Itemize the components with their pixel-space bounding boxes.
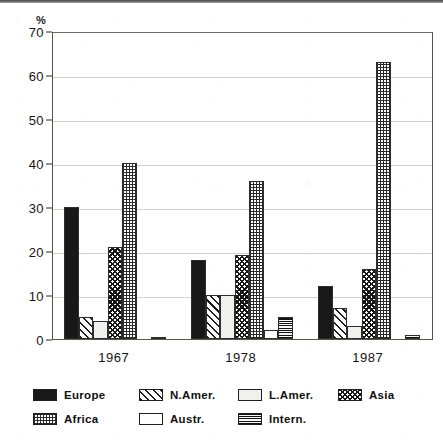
legend-label: Intern.	[269, 413, 306, 425]
bar-asia-1978	[235, 255, 250, 339]
legend-item-europe[interactable]: Europe	[33, 385, 105, 405]
bar-namer-1987	[333, 308, 348, 339]
legend-item-namer[interactable]: N.Amer.	[139, 385, 216, 405]
legend-item-asia[interactable]: Asia	[338, 385, 395, 405]
bar-chart-figure: % 010203040506070 196719781987 EuropeN.A…	[0, 0, 443, 440]
chart-legend: EuropeN.Amer.L.Amer.Asia AfricaAustr.Int…	[33, 385, 433, 433]
legend-swatch-intern-icon	[238, 413, 262, 425]
bar-lamer-1978	[220, 295, 235, 339]
x-label-1987: 1987	[352, 350, 383, 365]
legend-item-austr[interactable]: Austr.	[139, 409, 204, 429]
legend-label: N.Amer.	[170, 389, 216, 401]
y-tick-label: 20	[8, 245, 44, 260]
bar-series-container	[53, 33, 432, 339]
legend-swatch-europe-icon	[33, 389, 57, 401]
legend-label: Austr.	[170, 413, 204, 425]
legend-swatch-lamer-icon	[238, 389, 262, 401]
y-tick-label: 30	[8, 201, 44, 216]
bar-europe-1987	[318, 286, 333, 339]
y-tick-label: 60	[8, 69, 44, 84]
legend-item-africa[interactable]: Africa	[33, 409, 98, 429]
plot-area	[52, 32, 433, 340]
legend-label: Africa	[64, 413, 98, 425]
bar-europe-1967	[64, 207, 79, 339]
bar-asia-1987	[362, 269, 377, 339]
bar-africa-1987	[376, 62, 391, 339]
legend-label: Asia	[369, 389, 395, 401]
bar-asia-1967	[108, 247, 123, 339]
x-label-1978: 1978	[225, 350, 256, 365]
bar-lamer-1967	[93, 321, 108, 339]
y-tick-label: 70	[8, 25, 44, 40]
legend-row-bottom: AfricaAustr.Intern.	[33, 409, 433, 429]
bar-africa-1967	[122, 163, 137, 339]
legend-swatch-africa-icon	[33, 413, 57, 425]
legend-label: Europe	[64, 389, 105, 401]
bar-lamer-1987	[347, 326, 362, 339]
legend-swatch-austr-icon	[139, 413, 163, 425]
y-tick-label: 10	[8, 289, 44, 304]
bar-namer-1978	[206, 295, 221, 339]
legend-item-lamer[interactable]: L.Amer.	[238, 385, 313, 405]
y-tick-label: 50	[8, 113, 44, 128]
legend-item-intern[interactable]: Intern.	[238, 409, 306, 429]
bar-europe-1978	[191, 260, 206, 339]
bar-austr-1978	[264, 330, 279, 339]
bar-africa-1978	[249, 181, 264, 339]
bar-intern-1987	[405, 335, 420, 339]
legend-swatch-asia-icon	[338, 389, 362, 401]
legend-row-top: EuropeN.Amer.L.Amer.Asia	[33, 385, 433, 405]
legend-label: L.Amer.	[269, 389, 313, 401]
legend-swatch-namer-icon	[139, 389, 163, 401]
bar-intern-1978	[278, 317, 293, 339]
bar-intern-1967	[151, 337, 166, 340]
x-label-1967: 1967	[98, 350, 129, 365]
bar-namer-1967	[79, 317, 94, 339]
y-tick-label: 0	[8, 333, 44, 348]
y-tick-label: 40	[8, 157, 44, 172]
